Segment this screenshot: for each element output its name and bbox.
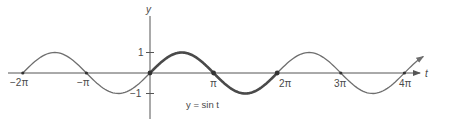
zero-point [275,71,280,76]
x-tick-label-pi: π [210,78,217,89]
y-tick-label-1: 1 [138,47,144,58]
t-axis-label: t [425,68,429,79]
zero-point [148,71,153,76]
sine-chart: y t 1 −1 −2π −π π 2π 3π 4π y = sin t [0,0,451,130]
x-tick-label-2pi: 2π [279,78,292,89]
x-tick-label-3pi: 3π [334,78,347,89]
x-tick-label-4pi: 4π [399,78,412,89]
zero-point [339,71,342,74]
x-tick-label-neg2pi: −2π [10,77,28,88]
y-tick-label-neg1: −1 [130,88,142,99]
x-tick-label-negpi: −π [77,77,90,88]
equation-label: y = sin t [186,99,219,110]
zero-point [403,71,406,74]
zero-point [21,71,24,74]
y-axis-label: y [145,4,152,15]
zero-point [85,71,88,74]
zero-point [211,71,216,76]
